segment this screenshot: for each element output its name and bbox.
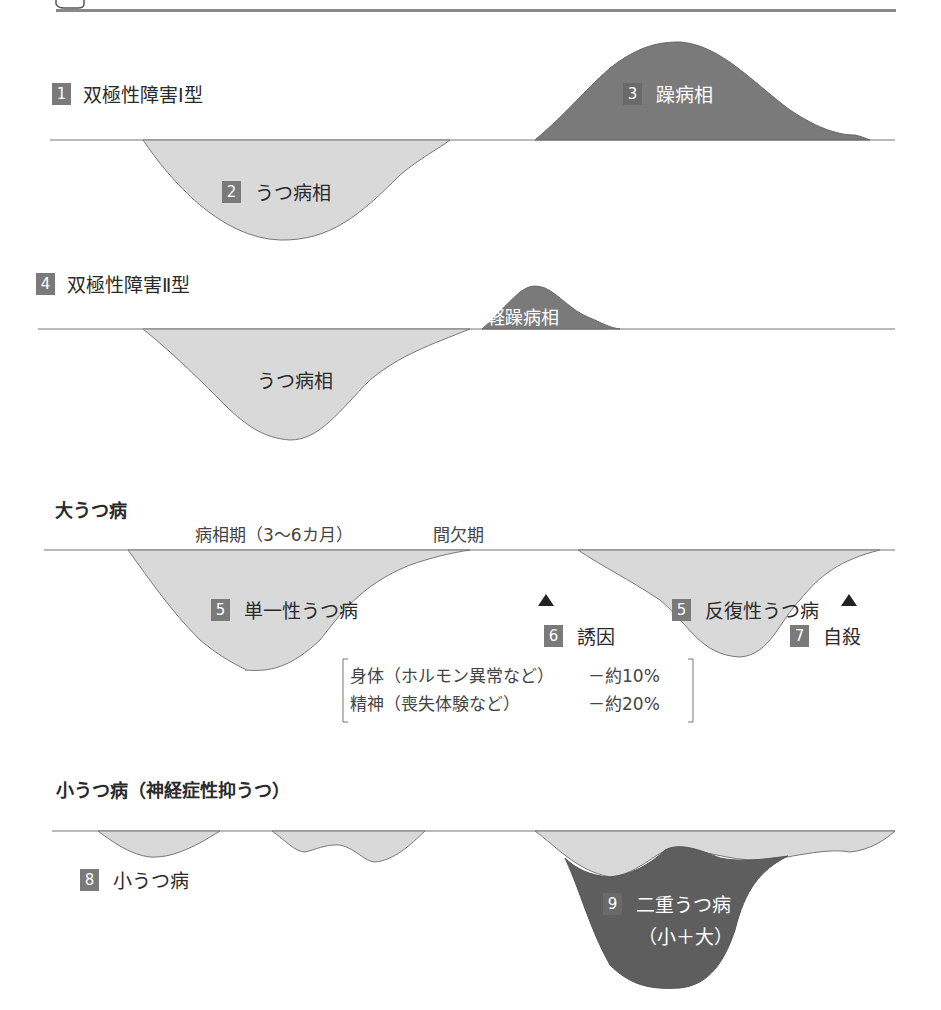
cause-row: 精神（喪失体験など） －約20% (350, 690, 660, 718)
recurrent-depression-text: 反復性うつ病 (705, 596, 819, 623)
mood-course-diagram (0, 0, 941, 1010)
number-badge: 8 (80, 869, 99, 891)
depression-phase-label-2: うつ病相 (257, 366, 333, 393)
heading-text: 双極性障害Ⅱ型 (67, 270, 190, 297)
cause-value: －約20% (588, 690, 660, 718)
minor-depression-wave-2 (272, 831, 425, 862)
heading-bipolar1: 1 双極性障害Ⅰ型 (52, 80, 203, 107)
double-depression-text: 二重うつ病 (636, 890, 731, 917)
number-badge: 5 (672, 599, 691, 621)
minor-depression-wave-1 (98, 831, 220, 857)
mania-phase-label: 3 躁病相 (623, 80, 713, 107)
bracket-left (343, 659, 348, 722)
minor-depression-label: 8 小うつ病 (80, 866, 189, 893)
suicide-marker-icon (841, 594, 857, 606)
heading-text: 双極性障害Ⅰ型 (83, 80, 203, 107)
causes-list: 身体（ホルモン異常など） －約10% 精神（喪失体験など） －約20% (350, 662, 660, 718)
bracket-right (688, 659, 693, 722)
recurrent-depression-label: 5 反復性うつ病 (672, 596, 819, 623)
double-depression-label: 9 二重うつ病 (603, 890, 731, 917)
phase-period-label: 病相期（3～6カ月） (195, 521, 353, 546)
number-badge: 7 (790, 625, 809, 647)
trigger-text: 誘因 (577, 622, 615, 649)
minor-depression-text: 小うつ病 (113, 866, 189, 893)
cause-name: 身体（ホルモン異常など） (350, 662, 588, 690)
hypomania-phase-label: 軽躁病相 (487, 303, 559, 329)
interval-period-label: 間欠期 (433, 521, 484, 546)
single-depression-label: 5 単一性うつ病 (211, 596, 358, 623)
trigger-marker-icon (538, 594, 554, 606)
suicide-text: 自殺 (823, 622, 861, 649)
single-depression-text: 単一性うつ病 (244, 596, 358, 623)
number-badge: 5 (211, 599, 230, 621)
number-badge: 9 (603, 893, 622, 915)
number-badge: 4 (36, 273, 55, 295)
number-badge: 6 (544, 625, 563, 647)
depression-phase-text: うつ病相 (255, 178, 331, 205)
header-tab-icon (56, 0, 84, 8)
number-badge: 3 (623, 83, 642, 105)
number-badge: 1 (52, 83, 71, 105)
suicide-label: 7 自殺 (790, 622, 861, 649)
heading-minor-depression: 小うつ病（神経症性抑うつ） (56, 776, 290, 802)
depression-phase-label: 2 うつ病相 (222, 178, 331, 205)
heading-bipolar2: 4 双極性障害Ⅱ型 (36, 270, 190, 297)
trigger-label: 6 誘因 (544, 622, 615, 649)
heading-major-depression: 大うつ病 (55, 496, 127, 522)
cause-value: －約10% (588, 662, 660, 690)
double-depression-sublabel: （小＋大） (638, 922, 733, 949)
cause-row: 身体（ホルモン異常など） －約10% (350, 662, 660, 690)
mania-phase-text: 躁病相 (656, 80, 713, 107)
number-badge: 2 (222, 181, 241, 203)
top-rule (56, 9, 896, 12)
cause-name: 精神（喪失体験など） (350, 690, 588, 718)
